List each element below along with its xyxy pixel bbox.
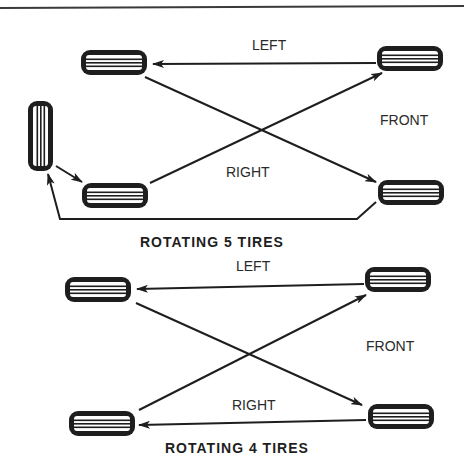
label-left: LEFT	[236, 258, 271, 274]
arrow-right-front-to-rear	[139, 420, 366, 425]
tire-left-front-icon	[365, 267, 431, 292]
tire-left-rear-icon	[65, 277, 131, 302]
arrow-spare-to-right-rear	[56, 166, 82, 182]
tire-right-rear-icon	[82, 183, 148, 208]
arrow-left-front-to-rear	[153, 63, 376, 64]
label-right: RIGHT	[232, 397, 276, 413]
tire-spare-icon	[28, 101, 53, 171]
diagram-title: ROTATING 4 TIRES	[165, 440, 309, 456]
tire-left-front-icon	[377, 46, 443, 71]
label-right: RIGHT	[226, 164, 270, 180]
tire-left-rear-icon	[81, 50, 147, 75]
diagram-rotating-4-tires: LEFT FRONT RIGHT ROTATING 4 TIRES	[65, 258, 434, 456]
tire-rotation-diagram: LEFT FRONT RIGHT ROTATING 5 TIRES LEFT F…	[0, 0, 464, 465]
tire-right-rear-icon	[69, 411, 135, 436]
diagram-rotating-5-tires: LEFT FRONT RIGHT ROTATING 5 TIRES	[28, 37, 444, 250]
label-left: LEFT	[252, 37, 287, 53]
diagram-title: ROTATING 5 TIRES	[140, 234, 284, 250]
tire-right-front-icon	[368, 404, 434, 429]
label-front: FRONT	[366, 338, 415, 354]
tire-right-front-icon	[378, 180, 444, 205]
arrow-right-rear-to-left-front	[139, 295, 366, 410]
arrow-left-front-to-rear	[137, 284, 364, 289]
top-border	[0, 6, 464, 8]
label-front: FRONT	[380, 112, 429, 128]
